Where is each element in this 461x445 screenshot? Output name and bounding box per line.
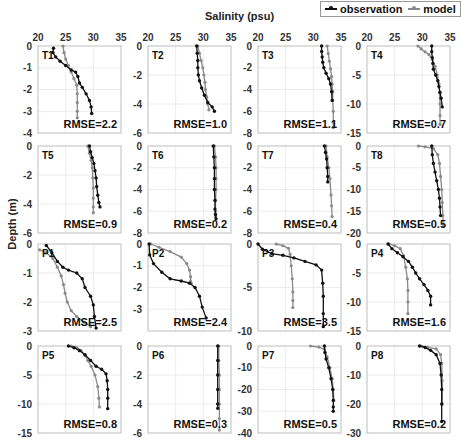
y-tick-label: -6 [133, 206, 142, 217]
x-tick-label: 35 [335, 32, 347, 43]
y-tick-label: 0 [355, 239, 361, 250]
panel-label: T5 [42, 150, 54, 161]
panel-label: P2 [152, 248, 165, 259]
panel-p6: 0-2-4-6P6RMSE=0.3 [133, 341, 231, 439]
rmse-label: RMSE=0.5 [393, 218, 447, 230]
y-tick-label: -2 [133, 70, 142, 81]
y-tick-label: -10 [238, 326, 253, 337]
y-tick-label: -1 [23, 62, 32, 73]
y-tick-label: -10 [347, 370, 362, 381]
panel-t8: 0-5-10-15-20T8RMSE=0.5 [347, 141, 450, 239]
y-tick-label: -4 [243, 184, 252, 195]
rmse-label: RMSE=0.5 [284, 418, 338, 430]
y-tick-label: -5 [23, 370, 32, 381]
x-tick-label: 25 [60, 32, 72, 43]
y-tick-label: -30 [238, 406, 253, 417]
y-tick-label: -2 [133, 162, 142, 173]
y-tick-label: -20 [347, 228, 362, 239]
x-tick-label: 20 [32, 32, 44, 43]
panel-label: P8 [371, 350, 384, 361]
y-tick-label: -10 [347, 297, 362, 308]
y-tick-label: -4 [133, 184, 142, 195]
panel-p3: 0-5-10P3RMSE=3.5 [238, 239, 341, 337]
y-tick-label: -4 [243, 84, 252, 95]
y-tick-label: -15 [347, 128, 362, 139]
y-tick-label: -4 [133, 99, 142, 110]
y-tick-label: -6 [133, 428, 142, 439]
rmse-label: RMSE=1.0 [174, 118, 228, 130]
y-tick-label: 0 [246, 239, 252, 250]
y-tick-label: 0 [355, 141, 361, 152]
panel-p1: 0-1-2-3P1RMSE=2.5 [23, 239, 121, 337]
panel-t6: 0-2-4-6-8T6RMSE=0.2 [133, 141, 231, 239]
y-tick-label: -5 [243, 282, 252, 293]
y-tick-label: -20 [347, 399, 362, 410]
rmse-label: RMSE=0.4 [284, 218, 338, 230]
y-tick-label: -2 [23, 170, 32, 181]
panel-t2: 202530350-2-4-6T2RMSE=1.0 [133, 32, 237, 139]
panel-p4: 0-5-10-15P4RMSE=1.6 [347, 239, 450, 337]
y-tick-label: -8 [243, 228, 252, 239]
y-tick-label: -5 [352, 268, 361, 279]
rmse-label: RMSE=0.3 [174, 418, 228, 430]
y-tick-label: -1 [23, 268, 32, 279]
legend-observation-label: observation [340, 3, 402, 15]
y-tick-label: -1 [133, 260, 142, 271]
y-tick-label: -30 [347, 428, 362, 439]
y-tick-label: -3 [133, 304, 142, 315]
y-tick-label: -20 [238, 384, 253, 395]
x-tick-label: 30 [88, 32, 100, 43]
rmse-label: RMSE=0.2 [174, 218, 228, 230]
panel-label: P7 [262, 350, 275, 361]
y-tick-label: 0 [136, 141, 142, 152]
x-tick-label: 30 [308, 32, 320, 43]
rmse-label: RMSE=2.2 [64, 118, 118, 130]
y-tick-label: -40 [238, 428, 253, 439]
y-tick-label: 0 [26, 341, 32, 352]
y-tick-label: 0 [26, 141, 32, 152]
y-tick-label: 0 [26, 41, 32, 52]
y-tick-label: 0 [355, 41, 361, 52]
y-tick-label: -10 [347, 184, 362, 195]
panel-p7: 0-10-20-30-40P7RMSE=0.5 [238, 341, 341, 439]
y-tick-label: -8 [133, 228, 142, 239]
panel-label: P4 [371, 248, 384, 259]
rmse-label: RMSE=1.6 [393, 316, 447, 328]
y-tick-label: -6 [243, 106, 252, 117]
rmse-label: RMSE=2.5 [64, 316, 118, 328]
y-tick-label: -8 [243, 128, 252, 139]
y-tick-label: -4 [133, 399, 142, 410]
panel-label: T6 [152, 150, 164, 161]
y-tick-label: -6 [133, 128, 142, 139]
y-tick-label: -4 [23, 128, 32, 139]
y-tick-label: -15 [347, 326, 362, 337]
y-tick-label: -2 [243, 162, 252, 173]
y-tick-label: -5 [352, 162, 361, 173]
panel-label: P3 [262, 248, 275, 259]
y-tick-label: -2 [23, 297, 32, 308]
panel-label: T7 [262, 150, 274, 161]
x-tick-label: 30 [198, 32, 210, 43]
panel-label: T8 [371, 150, 383, 161]
panel-p5: 0-5-10-15P5RMSE=0.8 [18, 341, 121, 439]
rmse-label: RMSE=0.2 [393, 418, 447, 430]
y-tick-label: 0 [246, 41, 252, 52]
y-tick-label: -4 [23, 199, 32, 210]
panel-t5: 0-2-4-6T5RMSE=0.9 [23, 141, 121, 239]
panel-label: T1 [42, 50, 54, 61]
y-axis-title: Depth (m) [6, 198, 18, 249]
y-tick-label: -10 [18, 399, 33, 410]
y-tick-label: -2 [133, 370, 142, 381]
y-tick-label: -10 [347, 99, 362, 110]
x-tick-label: 25 [389, 32, 401, 43]
y-tick-label: -2 [23, 84, 32, 95]
y-tick-label: -6 [23, 228, 32, 239]
model-line-icon [408, 8, 420, 10]
y-tick-label: 0 [26, 239, 32, 250]
panel-t1: 202530350-1-2-3-4T1RMSE=2.2 [23, 32, 127, 139]
rmse-label: RMSE=2.4 [174, 316, 228, 328]
y-tick-label: -5 [352, 70, 361, 81]
y-tick-label: -10 [238, 362, 253, 373]
y-tick-label: 0 [246, 141, 252, 152]
